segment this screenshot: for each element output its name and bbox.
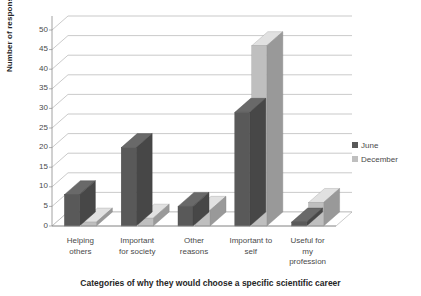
y-tick-label: 50 (26, 25, 48, 34)
y-tick-label: 15 (26, 162, 48, 171)
x-tick-label: Otherreasons (164, 236, 224, 257)
x-axis-title: Categories of why they would choose a sp… (0, 278, 421, 288)
x-tick-label: Helpingothers (50, 236, 110, 257)
legend-item-june[interactable]: June (352, 138, 420, 152)
y-tick-label: 30 (26, 103, 48, 112)
chart-container: Number of responses 05101520253035404550… (0, 0, 421, 296)
legend-swatch-june (352, 142, 358, 148)
x-tick-label: Importantfor society (107, 236, 167, 257)
y-tick-label: 20 (26, 142, 48, 151)
y-tick-label: 0 (26, 221, 48, 230)
y-tick-label: 5 (26, 201, 48, 210)
y-tick-label: 10 (26, 181, 48, 190)
legend-label-december: December (361, 155, 398, 164)
x-tick-label: Important toself (221, 236, 281, 257)
legend-swatch-december (352, 156, 358, 162)
legend-label-june: June (361, 141, 378, 150)
bar-june-3[interactable] (235, 98, 266, 226)
legend: June December (352, 138, 420, 166)
y-tick-label: 35 (26, 83, 48, 92)
y-tick-label: 45 (26, 44, 48, 53)
legend-item-december[interactable]: December (352, 152, 420, 166)
x-tick-label: Useful formyprofession (278, 236, 338, 268)
y-tick-label: 25 (26, 123, 48, 132)
y-tick-label: 40 (26, 64, 48, 73)
bar-june-1[interactable] (121, 134, 152, 226)
